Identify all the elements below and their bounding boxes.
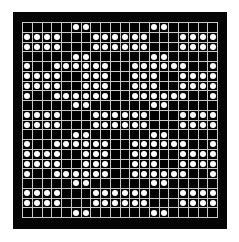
matrix-cell-on[interactable] [130, 189, 139, 198]
matrix-cell-on[interactable] [150, 101, 159, 110]
matrix-cell-off[interactable] [199, 169, 208, 178]
matrix-cell-on[interactable] [150, 208, 159, 217]
matrix-cell-on[interactable] [150, 62, 159, 71]
matrix-cell-on[interactable] [130, 72, 139, 81]
matrix-cell-off[interactable] [121, 72, 130, 81]
matrix-cell-on[interactable] [111, 33, 120, 42]
matrix-cell-on[interactable] [72, 23, 81, 32]
matrix-cell-on[interactable] [130, 111, 139, 120]
matrix-cell-on[interactable] [23, 121, 32, 130]
matrix-cell-on[interactable] [33, 121, 42, 130]
matrix-cell-off[interactable] [62, 72, 71, 81]
matrix-cell-off[interactable] [199, 101, 208, 110]
matrix-cell-off[interactable] [91, 208, 100, 217]
matrix-cell-on[interactable] [189, 121, 198, 130]
matrix-cell-on[interactable] [179, 111, 188, 120]
matrix-cell-off[interactable] [121, 160, 130, 169]
matrix-cell-off[interactable] [189, 52, 198, 61]
matrix-cell-off[interactable] [33, 91, 42, 100]
matrix-cell-off[interactable] [199, 52, 208, 61]
matrix-cell-on[interactable] [33, 43, 42, 52]
matrix-cell-on[interactable] [52, 62, 61, 71]
matrix-cell-on[interactable] [43, 150, 52, 159]
matrix-cell-off[interactable] [33, 23, 42, 32]
matrix-cell-on[interactable] [189, 111, 198, 120]
matrix-cell-off[interactable] [62, 101, 71, 110]
matrix-cell-off[interactable] [72, 160, 81, 169]
matrix-cell-on[interactable] [52, 111, 61, 120]
matrix-cell-on[interactable] [189, 82, 198, 91]
matrix-cell-on[interactable] [150, 52, 159, 61]
matrix-cell-off[interactable] [169, 52, 178, 61]
matrix-cell-on[interactable] [52, 140, 61, 149]
matrix-cell-off[interactable] [62, 111, 71, 120]
matrix-cell-on[interactable] [150, 150, 159, 159]
matrix-cell-on[interactable] [72, 208, 81, 217]
matrix-cell-on[interactable] [140, 121, 149, 130]
matrix-cell-off[interactable] [130, 130, 139, 139]
matrix-cell-on[interactable] [111, 189, 120, 198]
matrix-cell-off[interactable] [169, 72, 178, 81]
matrix-cell-off[interactable] [91, 23, 100, 32]
matrix-cell-off[interactable] [82, 199, 91, 208]
matrix-cell-on[interactable] [140, 111, 149, 120]
matrix-cell-off[interactable] [52, 179, 61, 188]
matrix-cell-on[interactable] [130, 43, 139, 52]
matrix-cell-off[interactable] [62, 52, 71, 61]
matrix-cell-on[interactable] [43, 111, 52, 120]
matrix-cell-on[interactable] [169, 62, 178, 71]
matrix-cell-off[interactable] [169, 121, 178, 130]
matrix-cell-off[interactable] [101, 130, 110, 139]
matrix-cell-off[interactable] [179, 52, 188, 61]
matrix-cell-off[interactable] [208, 52, 217, 61]
matrix-cell-on[interactable] [52, 72, 61, 81]
matrix-cell-off[interactable] [33, 130, 42, 139]
matrix-cell-on[interactable] [130, 62, 139, 71]
matrix-cell-off[interactable] [121, 91, 130, 100]
matrix-cell-on[interactable] [82, 140, 91, 149]
matrix-cell-on[interactable] [160, 179, 169, 188]
matrix-cell-off[interactable] [33, 62, 42, 71]
matrix-cell-off[interactable] [160, 33, 169, 42]
matrix-cell-on[interactable] [140, 169, 149, 178]
matrix-cell-off[interactable] [91, 130, 100, 139]
matrix-cell-on[interactable] [140, 82, 149, 91]
matrix-cell-off[interactable] [72, 33, 81, 42]
matrix-cell-off[interactable] [199, 91, 208, 100]
matrix-cell-on[interactable] [91, 189, 100, 198]
matrix-cell-off[interactable] [111, 208, 120, 217]
matrix-cell-off[interactable] [62, 179, 71, 188]
matrix-cell-on[interactable] [130, 82, 139, 91]
matrix-cell-off[interactable] [43, 208, 52, 217]
matrix-cell-on[interactable] [43, 199, 52, 208]
matrix-cell-on[interactable] [208, 82, 217, 91]
matrix-cell-on[interactable] [23, 62, 32, 71]
matrix-cell-on[interactable] [130, 150, 139, 159]
matrix-cell-off[interactable] [121, 140, 130, 149]
matrix-cell-off[interactable] [111, 62, 120, 71]
matrix-cell-on[interactable] [82, 72, 91, 81]
matrix-cell-off[interactable] [121, 23, 130, 32]
matrix-cell-on[interactable] [91, 72, 100, 81]
matrix-cell-off[interactable] [199, 130, 208, 139]
matrix-cell-off[interactable] [169, 111, 178, 120]
matrix-cell-on[interactable] [121, 111, 130, 120]
matrix-cell-on[interactable] [150, 72, 159, 81]
matrix-cell-off[interactable] [160, 199, 169, 208]
matrix-cell-on[interactable] [72, 91, 81, 100]
matrix-cell-on[interactable] [82, 160, 91, 169]
matrix-cell-on[interactable] [121, 43, 130, 52]
matrix-cell-off[interactable] [101, 208, 110, 217]
matrix-cell-on[interactable] [101, 150, 110, 159]
matrix-cell-on[interactable] [199, 72, 208, 81]
matrix-cell-on[interactable] [72, 179, 81, 188]
matrix-cell-off[interactable] [150, 33, 159, 42]
matrix-cell-on[interactable] [208, 140, 217, 149]
matrix-cell-off[interactable] [140, 130, 149, 139]
matrix-cell-on[interactable] [189, 199, 198, 208]
matrix-cell-on[interactable] [101, 82, 110, 91]
matrix-cell-on[interactable] [169, 169, 178, 178]
matrix-cell-on[interactable] [82, 101, 91, 110]
matrix-cell-on[interactable] [23, 82, 32, 91]
matrix-cell-off[interactable] [169, 23, 178, 32]
